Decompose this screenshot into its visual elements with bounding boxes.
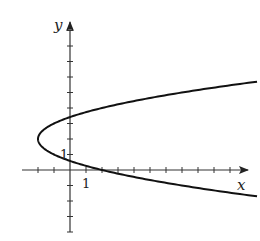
y-tick-label-1: 1	[60, 147, 68, 162]
x-tick-label-1: 1	[82, 176, 90, 191]
x-axis-label: x	[237, 176, 246, 194]
parabola-graph: y x 1 1	[0, 0, 260, 241]
y-axis-label: y	[53, 16, 63, 34]
